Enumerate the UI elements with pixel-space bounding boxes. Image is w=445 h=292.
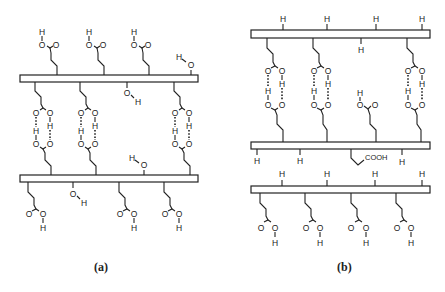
svg-text:O: O bbox=[26, 209, 33, 219]
svg-text:O: O bbox=[311, 100, 318, 110]
svg-text:O: O bbox=[258, 223, 265, 233]
svg-text:O: O bbox=[317, 223, 324, 233]
svg-text:O: O bbox=[394, 223, 401, 233]
svg-text:H: H bbox=[373, 14, 379, 24]
cooh-label: COOH bbox=[365, 153, 388, 162]
svg-text:H: H bbox=[325, 79, 331, 89]
svg-text:O: O bbox=[47, 108, 54, 118]
svg-text:O: O bbox=[279, 66, 286, 76]
free-cooh-group: COOH bbox=[351, 149, 388, 165]
svg-text:H: H bbox=[357, 88, 363, 98]
free-acid-group: OO H bbox=[86, 27, 107, 75]
svg-text:H: H bbox=[176, 223, 182, 233]
svg-text:H: H bbox=[419, 169, 425, 179]
svg-text:O: O bbox=[363, 223, 370, 233]
svg-text:H: H bbox=[186, 121, 192, 131]
free-acid-group: OO H bbox=[117, 182, 138, 233]
free-hydroxyl-group: O H bbox=[129, 153, 148, 175]
panel-label-a: (a) bbox=[94, 260, 108, 275]
svg-text:H: H bbox=[297, 156, 303, 166]
svg-text:O: O bbox=[348, 223, 355, 233]
acid-dimer-3: OO H H OO bbox=[172, 82, 193, 175]
panel-b: H H H H H OO H H OO OO H bbox=[251, 14, 430, 248]
svg-text:H: H bbox=[176, 52, 182, 62]
svg-text:O: O bbox=[40, 209, 47, 219]
acid-dimer-1: OO H H OO bbox=[33, 82, 54, 175]
svg-text:O: O bbox=[272, 223, 279, 233]
svg-text:O: O bbox=[357, 100, 364, 110]
svg-text:H: H bbox=[135, 97, 141, 107]
polymer-backbone-a-top bbox=[20, 75, 198, 82]
svg-text:H: H bbox=[408, 238, 414, 248]
svg-text:O: O bbox=[53, 40, 60, 50]
svg-text:O: O bbox=[47, 139, 54, 149]
svg-text:O: O bbox=[325, 66, 332, 76]
svg-text:H: H bbox=[86, 27, 92, 37]
polymer-backbone-a-bottom bbox=[20, 175, 198, 182]
acid-dimer-b2: OO H H OO bbox=[311, 38, 332, 142]
svg-text:O: O bbox=[303, 223, 310, 233]
svg-text:O: O bbox=[70, 189, 77, 199]
svg-text:O: O bbox=[311, 66, 318, 76]
svg-text:H: H bbox=[39, 27, 45, 37]
svg-text:H: H bbox=[279, 169, 285, 179]
svg-text:O: O bbox=[78, 108, 85, 118]
free-acid-group-b: OO H bbox=[394, 193, 415, 248]
svg-text:O: O bbox=[372, 100, 379, 110]
svg-text:H: H bbox=[317, 238, 323, 248]
svg-text:H: H bbox=[129, 153, 135, 163]
svg-text:O: O bbox=[124, 88, 131, 98]
svg-text:O: O bbox=[100, 40, 107, 50]
svg-text:O: O bbox=[325, 100, 332, 110]
polymer-backbone-b-middle bbox=[251, 142, 430, 149]
svg-text:O: O bbox=[172, 139, 179, 149]
svg-text:O: O bbox=[145, 40, 152, 50]
svg-text:H: H bbox=[399, 157, 405, 167]
backbone-hydrogens: H H H H bbox=[279, 169, 425, 186]
svg-text:O: O bbox=[265, 100, 272, 110]
svg-text:O: O bbox=[92, 139, 99, 149]
free-hydroxyl-group: O H bbox=[176, 52, 195, 75]
free-acid-group-b: H OO bbox=[357, 88, 379, 142]
svg-text:H: H bbox=[47, 121, 53, 131]
svg-text:H: H bbox=[363, 238, 369, 248]
free-acid-group: OO H bbox=[131, 27, 152, 75]
acid-dimer-2: OO H H OO bbox=[78, 82, 99, 175]
svg-text:O: O bbox=[419, 100, 426, 110]
svg-text:H: H bbox=[311, 86, 317, 96]
free-hydroxyl-group: O H bbox=[70, 182, 87, 208]
svg-text:O: O bbox=[265, 66, 272, 76]
svg-text:H: H bbox=[265, 86, 271, 96]
svg-text:O: O bbox=[86, 40, 93, 50]
svg-text:H: H bbox=[272, 238, 278, 248]
svg-text:O: O bbox=[131, 209, 138, 219]
svg-text:H: H bbox=[81, 198, 87, 208]
svg-text:H: H bbox=[280, 14, 286, 24]
svg-text:O: O bbox=[172, 108, 179, 118]
svg-text:H: H bbox=[405, 86, 411, 96]
free-acid-group: OO H bbox=[39, 27, 60, 75]
svg-text:O: O bbox=[186, 108, 193, 118]
svg-text:H: H bbox=[78, 126, 84, 136]
svg-text:H: H bbox=[372, 169, 378, 179]
polymer-backbone-b-top bbox=[251, 30, 430, 38]
svg-text:H: H bbox=[40, 223, 46, 233]
svg-text:O: O bbox=[279, 100, 286, 110]
svg-text:H: H bbox=[324, 14, 330, 24]
polymer-backbone-b-lower bbox=[251, 186, 430, 193]
svg-text:H: H bbox=[33, 126, 39, 136]
svg-text:O: O bbox=[39, 40, 46, 50]
svg-text:H: H bbox=[419, 79, 425, 89]
svg-text:O: O bbox=[131, 40, 138, 50]
free-hydroxyl-group: O H bbox=[124, 82, 141, 107]
free-acid-group-b: OO H bbox=[258, 193, 279, 248]
svg-text:H: H bbox=[92, 121, 98, 131]
svg-text:O: O bbox=[419, 66, 426, 76]
svg-text:H: H bbox=[131, 27, 137, 37]
panel-label-b: (b) bbox=[337, 260, 352, 275]
free-acid-group: OO H bbox=[26, 182, 47, 233]
svg-text:O: O bbox=[33, 139, 40, 149]
svg-text:O: O bbox=[162, 209, 169, 219]
svg-text:O: O bbox=[408, 223, 415, 233]
svg-text:O: O bbox=[33, 108, 40, 118]
